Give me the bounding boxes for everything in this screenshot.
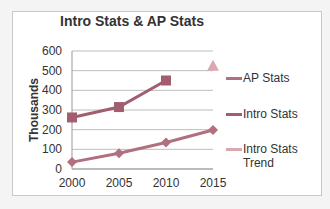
y-axis-label: Thousands: [27, 78, 41, 142]
legend-item-ap-stats: AP Stats: [226, 71, 289, 85]
y-tick-label: 300: [42, 103, 62, 117]
y-tick-label: 400: [42, 83, 62, 97]
diamond-marker-icon: [161, 137, 171, 147]
legend-item-intro-stats-trend: Intro StatsTrend: [226, 142, 298, 170]
y-tick-label: 600: [42, 44, 62, 58]
x-tick-label: 2010: [153, 176, 180, 190]
square-marker-icon: [67, 112, 77, 122]
triangle-marker-icon: [226, 148, 242, 151]
y-tick-label: 0: [55, 162, 62, 176]
x-tick-label: 2000: [59, 176, 86, 190]
diamond-marker-icon: [226, 77, 242, 80]
x-tick-label: 2005: [106, 176, 133, 190]
series-line: [72, 130, 213, 162]
square-marker-icon: [161, 76, 171, 86]
square-marker-icon: [114, 102, 124, 112]
square-marker-icon: [226, 113, 242, 116]
legend-item-intro-stats: Intro Stats: [226, 107, 298, 121]
plot-area: 01002003004005006002000200520102015Thous…: [0, 0, 330, 209]
y-tick-label: 200: [42, 123, 62, 137]
x-tick-label: 2015: [200, 176, 227, 190]
y-tick-label: 100: [42, 142, 62, 156]
diamond-marker-icon: [208, 125, 218, 135]
diamond-marker-icon: [67, 157, 77, 167]
triangle-marker-icon: [207, 60, 219, 71]
y-tick-label: 500: [42, 64, 62, 78]
